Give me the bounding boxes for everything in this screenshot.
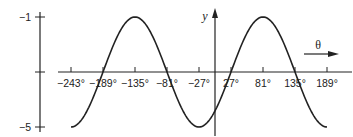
x-tick-label: 135°: [284, 77, 306, 89]
theta-label: θ: [315, 38, 321, 52]
x-tick-label: 189°: [316, 77, 338, 89]
theta-arrow-icon: [328, 51, 339, 57]
y-axis-arrow-icon: [212, 8, 218, 18]
x-tick-label: −27°: [188, 77, 210, 89]
x-tick-label: −243°: [57, 77, 85, 89]
sine-chart: −1 −5 −243°−189°−135°−81°−27°27°81°135°1…: [0, 0, 353, 137]
x-tick-label: 81°: [255, 77, 271, 89]
y-axis-label: y: [201, 9, 208, 23]
x-tick-label: −135°: [121, 77, 149, 89]
y-tick-label-top: −1: [19, 11, 31, 23]
left-scale-axis: −1 −5: [19, 11, 45, 133]
x-tick-label: −189°: [89, 77, 117, 89]
x-tick-label: −81°: [156, 77, 178, 89]
y-tick-label-bottom: −5: [19, 121, 31, 133]
theta-direction-indicator: θ: [304, 38, 339, 57]
